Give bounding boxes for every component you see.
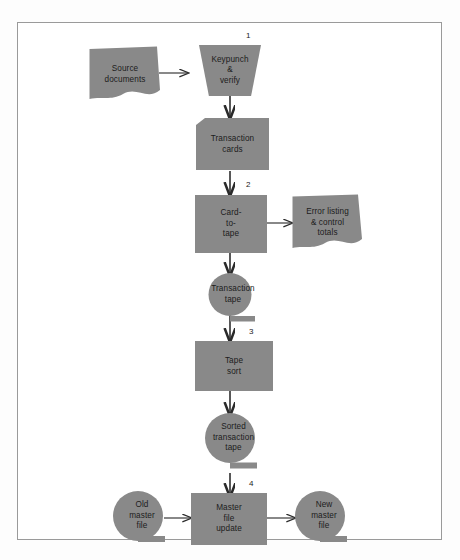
node-card-to-tape-text: Card- to- tape [195, 195, 267, 253]
figure-page: Source documents Keypunch & verify 1 Tra… [0, 0, 460, 560]
node-label: New master file [295, 500, 353, 532]
node-master-file-update-text: Master file update [191, 493, 267, 545]
node-label: Card- to- tape [195, 208, 267, 240]
node-label: Tape sort [195, 356, 273, 377]
node-label: Old master file [113, 500, 171, 532]
node-label: Source documents [89, 64, 161, 85]
node-sorted-transaction-tape[interactable]: Sorted transaction tape [202, 413, 265, 471]
figure-frame: Source documents Keypunch & verify 1 Tra… [17, 22, 442, 540]
step-number-1: 1 [246, 31, 250, 40]
node-source-documents[interactable]: Source documents [89, 46, 161, 102]
node-label: Error listing & control totals [292, 207, 363, 239]
node-label: Sorted transaction tape [202, 422, 265, 454]
node-keypunch-verify-text: Keypunch & verify [199, 45, 261, 96]
node-transaction-tape[interactable]: Transaction tape [203, 273, 263, 325]
step-number-3: 3 [249, 327, 253, 336]
node-label: Transaction tape [203, 284, 263, 305]
node-old-master-file[interactable]: Old master file [113, 491, 171, 546]
flowchart-canvas: Source documents Keypunch & verify 1 Tra… [18, 23, 443, 541]
node-label: Master file update [191, 503, 267, 535]
node-label: Transaction cards [196, 134, 269, 155]
node-tape-sort-text: Tape sort [195, 341, 273, 391]
step-number-2: 2 [246, 180, 250, 189]
step-number-4: 4 [249, 479, 253, 488]
node-label: Keypunch & verify [199, 55, 261, 87]
node-new-master-file[interactable]: New master file [295, 491, 353, 546]
node-transaction-cards-text: Transaction cards [196, 118, 269, 170]
node-error-listing[interactable]: Error listing & control totals [292, 194, 363, 252]
